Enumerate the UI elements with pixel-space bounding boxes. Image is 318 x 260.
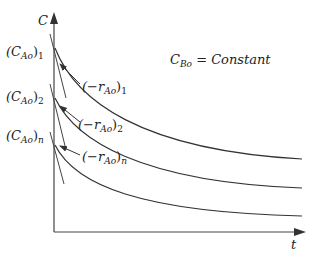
label-sub: Ao [104,86,116,96]
rate-arrow-n [60,146,80,155]
initial-conc-label-n: (CAo)n [6,129,44,145]
label-open: (C [6,44,21,59]
y-axis-arrow-icon [50,12,58,24]
label-index: 2 [38,96,44,106]
rate-arrow-1 [60,64,80,84]
initial-conc-label-1: (CAo)1 [6,45,44,61]
label-index: 1 [38,51,44,61]
label-open: (C [6,128,21,143]
curve-2 [55,98,302,188]
label-open: (−r [78,117,100,132]
initial-conc-label-2: (CAo)2 [6,90,44,106]
cbo-constant-annotation: CBo = Constant [170,53,271,69]
tangent-line-n [50,132,64,184]
label-sub: Ao [100,124,112,134]
label-open: (−r [82,79,104,94]
rate-label-n: (−rAo)n [82,150,127,166]
x-axis-arrow-icon [294,228,306,236]
label-open: (−r [82,149,104,164]
rate-label-1: (−rAo)1 [82,80,127,96]
label-index: 1 [121,86,127,96]
annotation-rest: = Constant [192,52,271,67]
label-sub: Ao [21,96,33,106]
label-index: n [38,135,44,145]
x-axis-label: t [291,238,296,251]
label-sub: Ao [21,51,33,61]
rate-label-2: (−rAo)2 [78,118,123,134]
annotation-sub: Bo [180,59,192,69]
y-axis-label: C [38,14,48,27]
label-sub: Ao [21,135,33,145]
annotation-main: C [170,52,180,67]
concentration-time-diagram: C t CBo = Constant (CAo)1 (CAo)2 (CAo)n … [0,0,318,260]
diagram-graphics [0,0,318,260]
label-index: 2 [117,124,123,134]
label-index: n [121,156,127,166]
label-sub: Ao [104,156,116,166]
label-open: (C [6,89,21,104]
